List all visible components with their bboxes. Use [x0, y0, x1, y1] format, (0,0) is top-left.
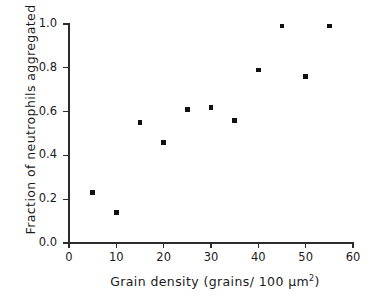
data-point [209, 105, 214, 110]
x-axis-tick-label: 50 [291, 250, 321, 264]
data-point [327, 24, 332, 29]
x-axis-tick-label: 0 [54, 250, 84, 264]
x-axis-tick [305, 243, 306, 248]
x-axis-tick-label: 20 [149, 250, 179, 264]
x-axis-tick [116, 243, 117, 248]
x-axis-tick-label: 40 [243, 250, 273, 264]
y-axis-tick-label: 0.6 [29, 104, 57, 118]
y-axis-tick [63, 199, 68, 200]
y-axis-tick [63, 111, 68, 112]
x-axis-tick [258, 243, 259, 248]
data-point [90, 190, 95, 195]
data-point [161, 140, 166, 145]
y-axis-tick [63, 155, 68, 156]
plot-area [69, 24, 353, 243]
y-axis-tick [63, 242, 68, 243]
x-axis-tick [352, 243, 353, 248]
y-axis-tick-label: 0.4 [29, 147, 57, 161]
data-point [256, 68, 261, 73]
x-axis-tick-label: 10 [101, 250, 131, 264]
scatter-plot-figure: Fraction of neutrophils aggregated Grain… [0, 0, 384, 308]
data-point [185, 107, 190, 112]
y-axis-title: Fraction of neutrophils aggregated [23, 0, 38, 245]
data-point [138, 120, 143, 125]
x-axis-tick [68, 243, 69, 248]
y-axis-tick [63, 67, 68, 68]
y-axis-tick-label: 0.8 [29, 60, 57, 74]
x-axis-title: Grain density (grains/ 100 µm2) [60, 274, 370, 289]
y-axis-tick-label: 0.2 [29, 191, 57, 205]
x-axis-tick-label: 30 [196, 250, 226, 264]
x-axis-tick-label: 60 [338, 250, 368, 264]
y-axis-tick-label: 1.0 [29, 16, 57, 30]
y-axis-tick [63, 23, 68, 24]
y-axis-tick-label: 0.0 [29, 235, 57, 249]
data-point [280, 24, 285, 29]
x-axis-title-main: Grain density (grains/ 100 µm [110, 274, 309, 289]
data-point [232, 118, 237, 123]
data-point [303, 74, 308, 79]
x-axis-title-tail: ) [315, 274, 320, 289]
data-point [114, 210, 119, 215]
x-axis-tick [163, 243, 164, 248]
x-axis-tick [210, 243, 211, 248]
